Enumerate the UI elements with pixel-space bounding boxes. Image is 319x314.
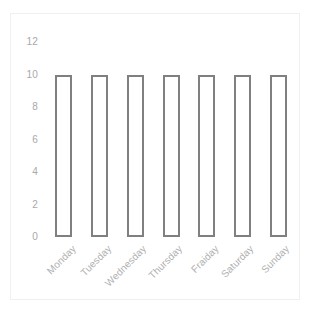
x-axis: MondayTuesdayWednesdayThursdayFraidaySat…	[0, 239, 319, 309]
bar	[234, 75, 251, 238]
x-tick-label: Tuesday	[78, 243, 113, 278]
x-tick-label: Monday	[44, 243, 77, 276]
bar	[55, 75, 72, 238]
plot-area	[46, 42, 296, 237]
bar	[163, 75, 180, 238]
y-tick-label: 12	[26, 37, 38, 47]
y-tick-label: 10	[26, 70, 38, 80]
y-tick-label: 2	[32, 200, 38, 210]
y-tick-label: 4	[32, 167, 38, 177]
bar	[127, 75, 144, 238]
bar	[198, 75, 215, 238]
bar	[91, 75, 108, 238]
x-tick-label: Fraiday	[189, 243, 221, 275]
y-tick-label: 8	[32, 102, 38, 112]
y-tick-label: 6	[32, 135, 38, 145]
x-tick-label: Sunday	[259, 243, 291, 275]
bar-chart: 024681012 MondayTuesdayWednesdayThursday…	[0, 0, 319, 314]
x-tick-label: Thursday	[146, 243, 184, 281]
bar	[270, 75, 287, 238]
x-tick-label: Saturday	[219, 243, 256, 280]
